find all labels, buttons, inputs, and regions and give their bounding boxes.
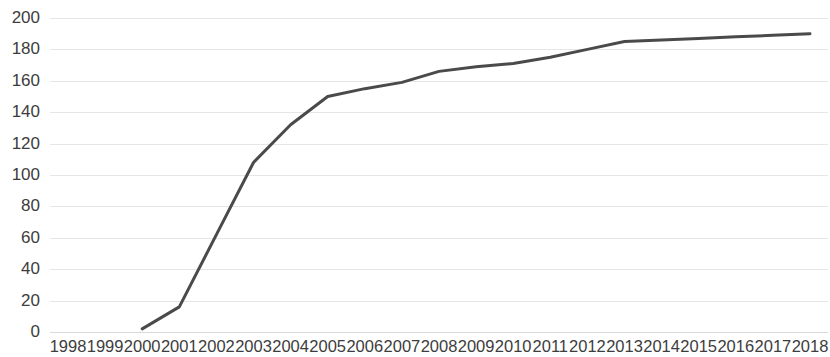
line-chart: 020406080100120140160180200 199819992000… xyxy=(0,0,830,357)
y-axis-tick-label: 140 xyxy=(0,102,40,122)
y-axis-tick-label: 20 xyxy=(0,291,40,311)
x-axis-tick-label: 2014 xyxy=(642,337,682,356)
x-axis-tick-label: 1998 xyxy=(48,337,88,356)
x-axis-tick-label: 2001 xyxy=(159,337,199,356)
x-axis-tick-label: 2017 xyxy=(753,337,793,356)
x-axis-tick-label: 2012 xyxy=(567,337,607,356)
series-line-1 xyxy=(142,34,810,329)
x-axis-tick-label: 2005 xyxy=(308,337,348,356)
x-axis-tick-label: 2016 xyxy=(716,337,756,356)
x-axis-tick-label: 2013 xyxy=(605,337,645,356)
y-axis-tick-label: 180 xyxy=(0,39,40,59)
x-axis-tick-label: 2015 xyxy=(679,337,719,356)
chart-plot-area xyxy=(0,0,830,357)
y-axis-tick-label: 0 xyxy=(0,322,40,342)
x-axis-tick-label: 2002 xyxy=(196,337,236,356)
x-axis-tick-label: 2007 xyxy=(382,337,422,356)
x-axis-tick-label: 2009 xyxy=(456,337,496,356)
x-axis-tick-label: 2008 xyxy=(419,337,459,356)
x-axis-tick-label: 2010 xyxy=(493,337,533,356)
y-axis-tick-label: 200 xyxy=(0,8,40,28)
gridlines-group xyxy=(50,19,828,333)
x-axis-tick-label: 2006 xyxy=(345,337,385,356)
y-axis-tick-label: 80 xyxy=(0,196,40,216)
y-axis-tick-label: 60 xyxy=(0,228,40,248)
x-axis-tick-label: 1999 xyxy=(85,337,125,356)
y-axis-tick-label: 160 xyxy=(0,71,40,91)
x-axis-tick-label: 2011 xyxy=(530,337,570,356)
y-axis-tick-label: 40 xyxy=(0,259,40,279)
x-axis-tick-label: 2018 xyxy=(790,337,830,356)
x-axis-tick-label: 2004 xyxy=(271,337,311,356)
data-series-group xyxy=(142,34,810,329)
x-axis-tick-label: 2003 xyxy=(234,337,274,356)
y-axis-tick-label: 100 xyxy=(0,165,40,185)
y-axis-tick-label: 120 xyxy=(0,134,40,154)
x-axis-tick-label: 2000 xyxy=(122,337,162,356)
